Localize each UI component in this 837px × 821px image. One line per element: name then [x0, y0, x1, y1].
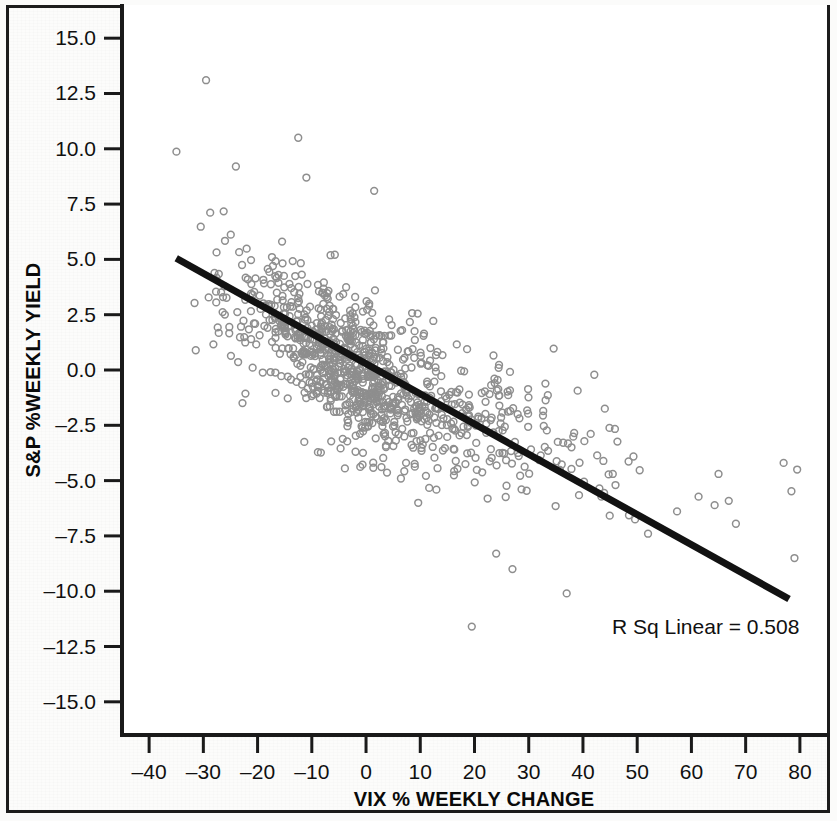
x-axis-tick-label: 20 [463, 760, 486, 783]
y-axis-tick-label: 7.5 [67, 192, 96, 215]
r-squared-annotation: R Sq Linear = 0.508 [612, 615, 799, 638]
scatter-plot-figure: 15.012.510.07.55.02.50.0–2.5–5.0–7.5–10.… [0, 0, 837, 821]
y-axis-tick-label: 5.0 [67, 247, 96, 270]
y-axis-tick-label: –5.0 [55, 469, 96, 492]
y-axis-tick-label: –7.5 [55, 524, 96, 547]
y-axis-tick-label: –12.5 [43, 635, 96, 658]
x-axis-tick-label: 10 [409, 760, 432, 783]
y-axis-tick-label: 10.0 [55, 137, 96, 160]
x-axis-tick-label: 0 [360, 760, 372, 783]
x-axis-tick-label: 50 [626, 760, 649, 783]
x-axis-tick-label: –40 [132, 760, 167, 783]
y-axis-tick-label: 15.0 [55, 26, 96, 49]
y-axis-tick-label: 12.5 [55, 81, 96, 104]
y-axis-tick-label: 0.0 [67, 358, 96, 381]
chart-canvas: 15.012.510.07.55.02.50.0–2.5–5.0–7.5–10.… [0, 0, 837, 821]
y-axis-tick-label: –2.5 [55, 413, 96, 436]
y-axis-tick-label: –10.0 [43, 579, 96, 602]
x-axis-title: VIX % WEEKLY CHANGE [354, 788, 595, 810]
x-axis-tick-label: –30 [186, 760, 221, 783]
x-axis-tick-label: 80 [788, 760, 811, 783]
x-axis-tick-label: –10 [294, 760, 329, 783]
x-axis-tick-label: 70 [734, 760, 757, 783]
y-axis-tick-label: 2.5 [67, 303, 96, 326]
x-axis-ticks: –40–30–20–1001020304050607080 [132, 735, 812, 783]
x-axis-tick-label: 40 [571, 760, 594, 783]
x-axis-tick-label: 30 [517, 760, 540, 783]
y-axis-ticks: 15.012.510.07.55.02.50.0–2.5–5.0–7.5–10.… [43, 26, 122, 713]
y-axis-title: S&P %WEEKLY YIELD [22, 263, 44, 478]
x-axis-tick-label: –20 [240, 760, 275, 783]
x-axis-tick-label: 60 [680, 760, 703, 783]
y-axis-tick-label: –15.0 [43, 690, 96, 713]
